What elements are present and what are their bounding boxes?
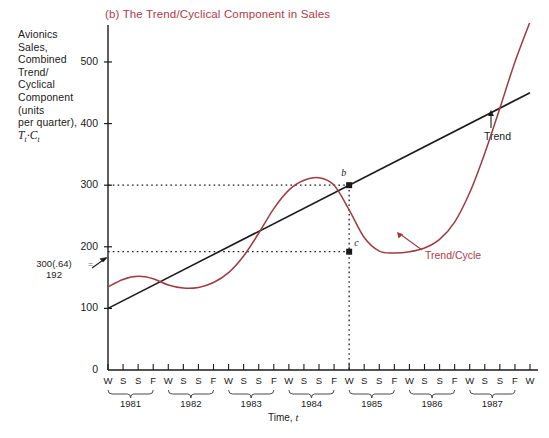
year-bracket-1986 <box>409 390 454 398</box>
x-tick-label-0: W <box>102 375 114 386</box>
chart-figure: Avionics Sales, Combined Trend/ Cyclical… <box>0 0 549 438</box>
x-tick-label-3: F <box>147 375 159 386</box>
trend-cycle-curve <box>108 22 530 288</box>
y-tick-label-400: 400 <box>68 117 98 129</box>
x-tick-label-2: S <box>132 375 144 386</box>
year-brackets-group <box>108 390 515 398</box>
point-c-marker <box>346 249 352 255</box>
year-label-1982: 1982 <box>169 398 213 409</box>
x-tick-label-4: W <box>162 375 174 386</box>
year-bracket-1984 <box>289 390 334 398</box>
year-bracket-1985 <box>349 390 394 398</box>
y-tick-label-100: 100 <box>68 301 98 313</box>
x-tick-label-28: W <box>524 375 536 386</box>
x-tick-label-20: W <box>403 375 415 386</box>
year-bracket-1981 <box>108 390 153 398</box>
y-tick-label-500: 500 <box>68 55 98 67</box>
x-tick-label-18: S <box>373 375 385 386</box>
y-tick-label-0: 0 <box>68 363 98 375</box>
year-bracket-1983 <box>229 390 274 398</box>
year-label-1987: 1987 <box>470 398 514 409</box>
x-tick-label-16: W <box>343 375 355 386</box>
x-tick-label-7: F <box>208 375 220 386</box>
x-tick-label-15: F <box>328 375 340 386</box>
axes-group <box>104 25 538 370</box>
x-tick-label-21: S <box>419 375 431 386</box>
x-tick-label-27: F <box>509 375 521 386</box>
x-tick-label-9: S <box>238 375 250 386</box>
year-label-1981: 1981 <box>109 398 153 409</box>
x-tick-label-10: S <box>253 375 265 386</box>
year-label-1985: 1985 <box>350 398 394 409</box>
y-tick-label-300: 300 <box>68 178 98 190</box>
x-tick-label-23: F <box>449 375 461 386</box>
x-tick-label-6: S <box>192 375 204 386</box>
x-tick-label-14: S <box>313 375 325 386</box>
y-tick-label-200: 200 <box>68 240 98 252</box>
x-tick-label-8: W <box>223 375 235 386</box>
x-tick-label-5: S <box>177 375 189 386</box>
year-bracket-1987 <box>470 390 515 398</box>
x-tick-label-26: S <box>494 375 506 386</box>
x-tick-label-22: S <box>434 375 446 386</box>
year-bracket-1982 <box>168 390 213 398</box>
year-label-1983: 1983 <box>229 398 273 409</box>
x-tick-label-25: S <box>479 375 491 386</box>
data-series-group <box>108 22 530 308</box>
point-b-marker <box>346 182 352 188</box>
guide-lines-group <box>108 185 349 370</box>
x-tick-label-12: W <box>283 375 295 386</box>
x-tick-label-24: W <box>464 375 476 386</box>
x-tick-label-19: F <box>388 375 400 386</box>
x-tick-label-11: F <box>268 375 280 386</box>
year-label-1986: 1986 <box>410 398 454 409</box>
year-label-1984: 1984 <box>289 398 333 409</box>
x-tick-label-17: S <box>358 375 370 386</box>
x-tick-label-13: S <box>298 375 310 386</box>
x-tick-label-1: S <box>117 375 129 386</box>
trend-cycle-leader-line <box>400 234 422 250</box>
